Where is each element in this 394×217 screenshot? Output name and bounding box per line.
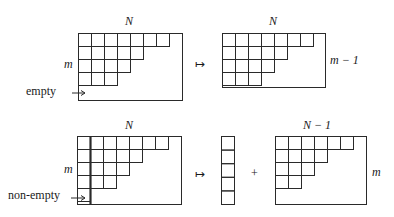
top-left-diagram-cell: [131, 47, 144, 60]
bottom-left-diagram-cell: [104, 176, 117, 189]
top-left-diagram-cell: [92, 60, 105, 73]
bottom-right-n-minus-1-label: N − 1: [303, 119, 331, 131]
bottom-left-diagram-cell: [117, 137, 130, 150]
bottom-right-diagram-cell: [276, 163, 289, 176]
top-right-diagram-cell: [262, 47, 275, 60]
bottom-right-diagram-cell: [289, 150, 302, 163]
top-left-diagram-cell: [92, 47, 105, 60]
top-right-diagram-cell: [275, 34, 288, 47]
column-cell: [222, 177, 235, 191]
bottom-left-diagram-cell: [104, 150, 117, 163]
top-right-diagram-cell: [249, 34, 262, 47]
bottom-right-diagram-cell: [328, 137, 341, 150]
bottom-left-diagram-cell: [91, 150, 104, 163]
top-right-diagram-cell: [249, 73, 262, 86]
top-right-diagram-cell: [236, 73, 249, 86]
bottom-right-diagram-cell: [276, 137, 289, 150]
bottom-left-diagram-cell: [78, 189, 91, 202]
top-left-diagram-cell: [79, 34, 92, 47]
top-right-diagram-cell: [249, 47, 262, 60]
bottom-left-diagram-cell: [91, 176, 104, 189]
top-right-diagram-cell: [275, 47, 288, 60]
top-right-m-minus-1-label: m − 1: [330, 54, 359, 66]
top-left-diagram-cell: [105, 60, 118, 73]
bottom-right-diagram-cell: [276, 150, 289, 163]
top-left-diagram-cell: [79, 73, 92, 86]
bottom-left-diagram-cell: [156, 137, 169, 150]
bottom-left-diagram-cell: [130, 137, 143, 150]
bottom-left-n-label: N: [125, 119, 133, 131]
top-left-diagram-cell: [105, 73, 118, 86]
bottom-left-m-label: m: [64, 163, 73, 175]
plus-symbol: +: [251, 167, 258, 179]
top-right-diagram-cell: [249, 60, 262, 73]
bottom-right-diagram-frame: [276, 137, 367, 205]
top-left-n-label: N: [125, 15, 133, 27]
top-right-diagram-cell: [262, 34, 275, 47]
bottom-right-diagram-cell: [302, 150, 315, 163]
top-right-diagram-cell: [301, 34, 314, 47]
top-left-diagram-cell: [144, 34, 157, 47]
bottom-left-diagram-cell: [104, 163, 117, 176]
top-left-diagram-cell: [92, 73, 105, 86]
bottom-right-diagram-cell: [289, 163, 302, 176]
bottom-left-diagram-cell: [117, 163, 130, 176]
top-left-diagram-cell: [92, 34, 105, 47]
top-right-diagram-cell: [236, 60, 249, 73]
top-right-n-label: N: [269, 15, 277, 27]
column-cell: [222, 164, 235, 178]
bottom-right-diagram-cell: [315, 137, 328, 150]
top-right-diagram-cell: [262, 60, 275, 73]
bottom-right-m-label: m: [372, 166, 381, 178]
bottom-right-diagram-cell: [289, 176, 302, 189]
column-cell: [222, 191, 235, 205]
top-left-diagram-cell: [131, 34, 144, 47]
top-left-diagram-cell: [157, 34, 170, 47]
top-left-diagram-cell: [118, 47, 131, 60]
bottom-left-diagram-cell: [91, 137, 104, 150]
diagram-canvas: [0, 0, 394, 217]
bottom-left-diagram-cell: [117, 150, 130, 163]
top-right-diagram-cell: [223, 34, 236, 47]
bottom-left-diagram-cell: [78, 137, 91, 150]
column-cell: [222, 150, 235, 164]
column-cell: [222, 137, 235, 151]
bottom-left-diagram-cell: [143, 137, 156, 150]
top-right-diagram-cell: [223, 47, 236, 60]
top-left-m-label: m: [64, 58, 73, 70]
non-empty-label: non-empty: [8, 189, 60, 201]
top-left-diagram-cell: [79, 60, 92, 73]
bottom-left-diagram-cell: [130, 150, 143, 163]
bottom-right-diagram-cell: [341, 137, 354, 150]
top-right-diagram-cell: [236, 34, 249, 47]
top-left-diagram-cell: [79, 47, 92, 60]
bottom-left-diagram-cell: [78, 150, 91, 163]
bottom-right-diagram-cell: [302, 163, 315, 176]
bottom-left-diagram-cell: [78, 163, 91, 176]
bottom-right-diagram-cell: [302, 137, 315, 150]
bottom-right-diagram-cell: [315, 150, 328, 163]
bottom-left-diagram-cell: [91, 163, 104, 176]
empty-label: empty: [26, 85, 56, 97]
top-left-diagram-cell: [118, 60, 131, 73]
top-right-diagram-cell: [223, 60, 236, 73]
bottom-maps-to-symbol: ↦: [195, 168, 205, 180]
top-right-diagram-cell: [236, 47, 249, 60]
top-left-diagram-cell: [105, 34, 118, 47]
top-right-diagram-cell: [288, 34, 301, 47]
top-left-diagram-cell: [105, 47, 118, 60]
bottom-right-diagram-cell: [289, 137, 302, 150]
bottom-right-diagram-cell: [276, 176, 289, 189]
bottom-left-diagram-cell: [78, 176, 91, 189]
top-left-diagram-cell: [118, 34, 131, 47]
top-right-diagram-cell: [223, 73, 236, 86]
bottom-left-diagram-cell: [104, 137, 117, 150]
top-maps-to-symbol: ↦: [195, 58, 205, 70]
